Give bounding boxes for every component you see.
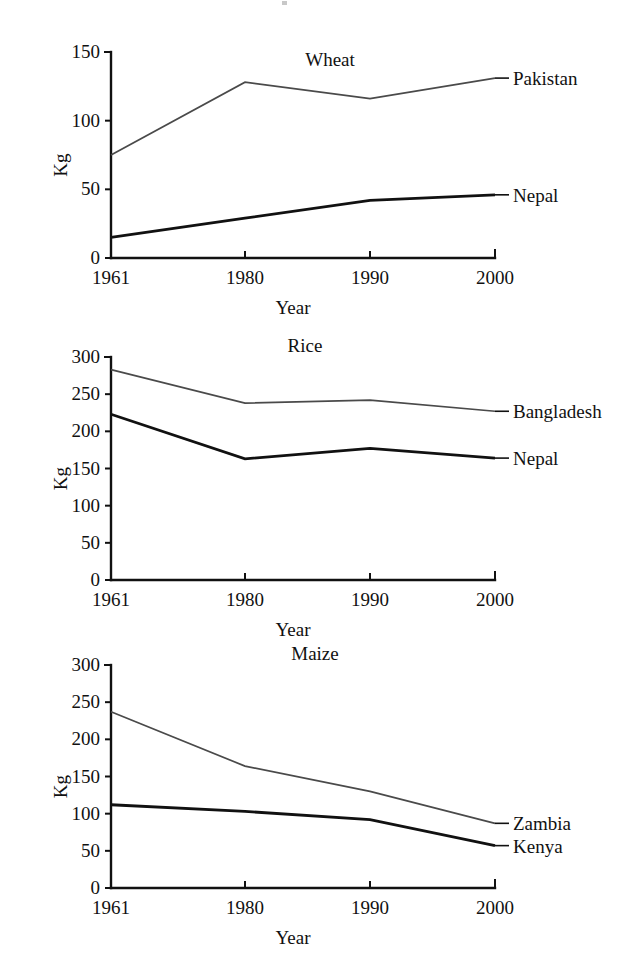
x-axis-title: Year bbox=[275, 927, 311, 948]
x-tick-label: 1961 bbox=[92, 897, 130, 918]
series-label-nepal: Nepal bbox=[513, 448, 558, 469]
chart-title: Wheat bbox=[305, 49, 355, 70]
x-tick-label: 1961 bbox=[92, 267, 130, 288]
y-tick-label: 200 bbox=[72, 728, 101, 749]
x-tick-label: 2000 bbox=[476, 267, 514, 288]
series-line-nepal bbox=[111, 195, 495, 238]
y-tick-label: 0 bbox=[91, 569, 101, 590]
x-tick-label: 1980 bbox=[226, 589, 264, 610]
y-tick-label: 0 bbox=[91, 247, 101, 268]
series-line-nepal bbox=[111, 414, 495, 459]
y-tick-label: 300 bbox=[72, 654, 101, 675]
y-tick-label: 150 bbox=[72, 766, 101, 787]
y-tick-label: 300 bbox=[72, 346, 101, 367]
series-label-nepal: Nepal bbox=[513, 185, 558, 206]
x-tick-label: 1980 bbox=[226, 267, 264, 288]
series-label-kenya: Kenya bbox=[513, 836, 563, 857]
y-tick-label: 100 bbox=[72, 495, 101, 516]
chart-title: Maize bbox=[291, 643, 338, 664]
x-tick-label: 1961 bbox=[92, 589, 130, 610]
series-label-pakistan: Pakistan bbox=[513, 68, 578, 89]
y-tick-label: 0 bbox=[91, 877, 101, 898]
chart-title: Rice bbox=[288, 335, 323, 356]
x-tick-label: 1990 bbox=[351, 897, 389, 918]
x-tick-label: 1990 bbox=[351, 267, 389, 288]
series-line-pakistan bbox=[111, 78, 495, 155]
series-line-bangladesh bbox=[111, 370, 495, 412]
maize-line-chart: Maize0501001502002503001961198019902000K… bbox=[0, 640, 635, 973]
x-axis-title: Year bbox=[275, 297, 311, 318]
y-tick-label: 150 bbox=[72, 41, 101, 62]
x-axis-title: Year bbox=[275, 619, 311, 640]
chart-panel-maize: Maize0501001502002503001961198019902000K… bbox=[0, 640, 635, 973]
y-tick-label: 100 bbox=[72, 803, 101, 824]
y-axis-title: Kg bbox=[50, 466, 71, 490]
x-tick-label: 2000 bbox=[476, 897, 514, 918]
chart-panel-wheat: Wheat0501001501961198019902000KgYearPaki… bbox=[0, 0, 635, 320]
y-axis-title: Kg bbox=[50, 774, 71, 798]
wheat-line-chart: Wheat0501001501961198019902000KgYearPaki… bbox=[0, 0, 635, 320]
x-tick-label: 1980 bbox=[226, 897, 264, 918]
y-tick-label: 250 bbox=[72, 691, 101, 712]
series-line-kenya bbox=[111, 805, 495, 846]
x-tick-label: 2000 bbox=[476, 589, 514, 610]
series-label-zambia: Zambia bbox=[513, 813, 572, 834]
rice-line-chart: Rice0501001502002503001961198019902000Kg… bbox=[0, 320, 635, 640]
y-tick-label: 50 bbox=[81, 178, 100, 199]
x-tick-label: 1990 bbox=[351, 589, 389, 610]
y-tick-label: 50 bbox=[81, 532, 100, 553]
chart-panel-rice: Rice0501001502002503001961198019902000Kg… bbox=[0, 320, 635, 640]
figure-root: Wheat0501001501961198019902000KgYearPaki… bbox=[0, 0, 635, 973]
y-tick-label: 50 bbox=[81, 840, 100, 861]
y-tick-label: 150 bbox=[72, 458, 101, 479]
y-axis-title: Kg bbox=[50, 153, 71, 177]
y-tick-label: 100 bbox=[72, 110, 101, 131]
series-label-bangladesh: Bangladesh bbox=[513, 401, 602, 422]
y-tick-label: 200 bbox=[72, 420, 101, 441]
y-tick-label: 250 bbox=[72, 383, 101, 404]
